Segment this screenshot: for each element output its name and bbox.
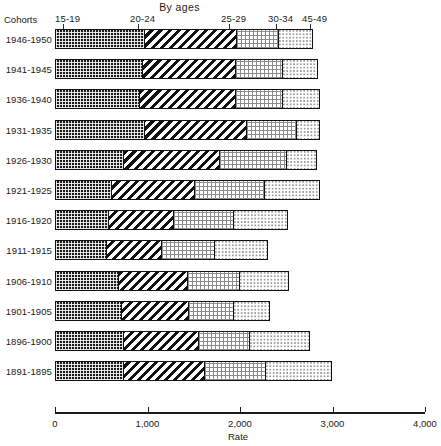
x-tick-label-3,000: 3,000 (311, 418, 355, 429)
bar-segment-25-29 (188, 302, 233, 320)
bar-segment-30-34 (249, 332, 310, 350)
bar-row (55, 361, 332, 381)
bar-segment-25-29 (235, 60, 281, 78)
x-tick-2,000 (240, 407, 241, 412)
bar-segment-15-19 (56, 362, 123, 380)
bar-segment-30-34 (282, 60, 318, 78)
bar-segment-15-19 (56, 90, 139, 108)
cohort-label-1906-1910: 1906-1910 (2, 276, 52, 287)
bar-segment-15-19 (56, 241, 106, 259)
cohort-label-1931-1935: 1931-1935 (2, 125, 52, 136)
bar-segment-15-19 (56, 302, 121, 320)
bar-segment-20-24 (144, 121, 246, 139)
bar-segment-20-24 (118, 272, 187, 290)
bar-segment-20-24 (123, 362, 204, 380)
bar-segment-20-24 (111, 181, 194, 199)
x-tick-0 (55, 407, 56, 412)
bar-segment-25-29 (161, 241, 214, 259)
age-group-label-15-19: 15-19 (55, 13, 80, 24)
bar-segment-15-19 (56, 121, 144, 139)
age-group-label-20-24: 20-24 (130, 13, 155, 24)
bar-segment-30-34 (233, 302, 270, 320)
x-tick-label-2,000: 2,000 (218, 418, 262, 429)
x-tick-label-1,000: 1,000 (126, 418, 170, 429)
chart-title: By ages (0, 1, 435, 13)
bar-segment-30-34 (278, 30, 313, 48)
cohort-label-1911-1915: 1911-1915 (2, 245, 52, 256)
cohort-label-1901-1905: 1901-1905 (2, 306, 52, 317)
bar-segment-15-19 (56, 211, 108, 229)
bar-segment-15-19 (56, 332, 123, 350)
x-axis-title: Rate (228, 431, 248, 442)
x-tick-4,000 (425, 407, 426, 412)
bar-row (55, 120, 320, 140)
bar-row (55, 150, 317, 170)
bar-segment-30-34 (296, 121, 320, 139)
cohort-label-1891-1895: 1891-1895 (2, 366, 52, 377)
bar-row (55, 180, 320, 200)
bar-segment-25-29 (219, 151, 286, 169)
bar-segment-15-19 (56, 30, 144, 48)
cohort-label-1946-1950: 1946-1950 (2, 34, 52, 45)
chart-title-text: By ages (159, 1, 200, 13)
bar-segment-30-34 (264, 181, 320, 199)
bar-segment-30-34 (286, 151, 317, 169)
cohort-label-1896-1900: 1896-1900 (2, 336, 52, 347)
bar-segment-15-19 (56, 181, 111, 199)
bar-segment-20-24 (139, 90, 234, 108)
bar-segment-25-29 (246, 121, 296, 139)
bar-row (55, 271, 289, 291)
cohorts-axis-label: Cohorts (4, 14, 37, 25)
bar-segment-25-29 (198, 332, 249, 350)
bar-row (55, 59, 318, 79)
bar-row (55, 210, 288, 230)
bar-row (55, 29, 313, 49)
bar-segment-15-19 (56, 60, 142, 78)
bar-row (55, 331, 310, 351)
bar-segment-30-34 (233, 211, 288, 229)
x-tick-label-0: 0 (33, 418, 77, 429)
bar-row (55, 301, 270, 321)
x-axis-line (55, 412, 425, 414)
x-tick-1,000 (148, 407, 149, 412)
bar-segment-15-19 (56, 272, 118, 290)
bar-segment-25-29 (235, 90, 282, 108)
bar-row (55, 240, 268, 260)
bar-segment-20-24 (106, 241, 161, 259)
cohort-label-1936-1940: 1936-1940 (2, 94, 52, 105)
bar-segment-20-24 (123, 151, 219, 169)
age-group-label-30-34: 30-34 (268, 13, 293, 24)
cohort-label-1916-1920: 1916-1920 (2, 215, 52, 226)
cohort-label-1926-1930: 1926-1930 (2, 155, 52, 166)
bar-segment-25-29 (187, 272, 239, 290)
bar-segment-25-29 (173, 211, 233, 229)
age-group-label-45-49: 45-49 (302, 13, 327, 24)
bar-segment-25-29 (194, 181, 264, 199)
x-tick-3,000 (333, 407, 334, 412)
bar-segment-15-19 (56, 151, 123, 169)
bar-segment-30-34 (265, 362, 332, 380)
x-tick-label-4,000: 4,000 (403, 418, 441, 429)
bar-segment-25-29 (204, 362, 265, 380)
bar-segment-20-24 (144, 30, 236, 48)
cohort-label-1941-1945: 1941-1945 (2, 64, 52, 75)
bar-segment-30-34 (214, 241, 268, 259)
bar-segment-30-34 (239, 272, 289, 290)
bar-segment-20-24 (142, 60, 235, 78)
cohort-label-1921-1925: 1921-1925 (2, 185, 52, 196)
age-group-label-25-29: 25-29 (221, 13, 246, 24)
bar-row (55, 89, 320, 109)
bar-segment-30-34 (282, 90, 321, 108)
bar-segment-20-24 (123, 332, 198, 350)
bar-segment-20-24 (121, 302, 188, 320)
bar-segment-20-24 (108, 211, 173, 229)
bar-segment-25-29 (236, 30, 278, 48)
